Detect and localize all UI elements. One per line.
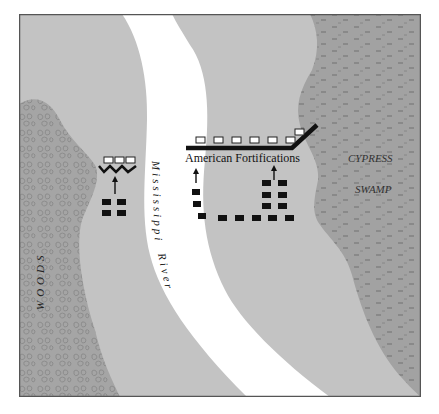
swamp-label-cypress: CYPRESS (348, 152, 393, 164)
troop-unit-icon (278, 203, 287, 209)
unit-position-icon (295, 129, 304, 135)
battle-map: WOODS Mississippi River CYPRESS SWAMP Am… (0, 0, 439, 414)
unit-position-icon (196, 137, 205, 143)
troop-unit-icon (262, 203, 271, 209)
troop-unit-icon (192, 189, 200, 195)
troop-unit-icon (198, 213, 206, 219)
unit-position-icon (286, 137, 295, 143)
west-bank-unit-positions (104, 157, 135, 163)
troop-unit-icon (102, 199, 111, 205)
unit-position-icon (104, 157, 113, 163)
troop-unit-icon (278, 180, 287, 186)
unit-position-icon (214, 137, 223, 143)
troop-unit-icon (252, 215, 261, 221)
unit-position-icon (232, 137, 241, 143)
troop-unit-icon (193, 201, 201, 207)
unit-position-icon (126, 157, 135, 163)
unit-position-icon (115, 157, 124, 163)
unit-position-icon (250, 137, 259, 143)
troop-unit-icon (117, 199, 126, 205)
troop-unit-icon (102, 210, 111, 216)
troop-unit-icon (278, 192, 287, 198)
troop-unit-icon (117, 210, 126, 216)
fortifications-label: American Fortifications (185, 151, 300, 165)
troop-unit-icon (268, 215, 277, 221)
troop-unit-icon (218, 215, 227, 221)
troop-unit-icon (262, 192, 271, 198)
swamp-label-swamp: SWAMP (355, 183, 392, 195)
woods-label: WOODS (34, 252, 46, 311)
troop-unit-icon (262, 180, 271, 186)
troop-unit-icon (285, 215, 294, 221)
unit-position-icon (268, 137, 277, 143)
troop-unit-icon (235, 215, 244, 221)
